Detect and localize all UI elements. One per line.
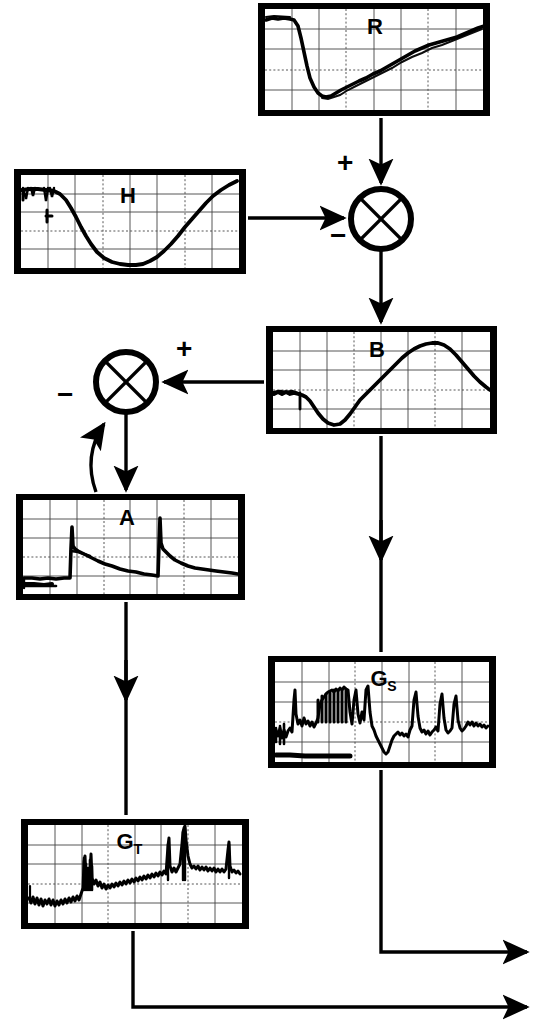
connector-gt-output: [133, 931, 527, 1007]
connector-a-to-sum2-feedback: [91, 424, 104, 492]
scope-label-GS: G: [370, 666, 387, 691]
scope-label-R: R: [367, 14, 383, 39]
summing-junction-2: [96, 352, 156, 412]
junction-2-plus-sign: +: [176, 335, 192, 363]
scope-label-GS-subscript: S: [387, 678, 396, 694]
scope-label-GT: G: [116, 829, 133, 854]
scope-label-GT-subscript: T: [134, 841, 143, 857]
scope-screen-A: A: [16, 494, 245, 600]
scope-screen-R: R: [258, 3, 490, 116]
connector-gs-output: [381, 770, 527, 952]
junction-1-minus-sign: −: [330, 222, 346, 250]
scope-label-B: B: [369, 337, 385, 362]
summing-junction-1: [351, 189, 411, 249]
diagram-canvas: R: [0, 0, 544, 1022]
scope-label-A: A: [119, 505, 135, 530]
scope-label-H: H: [120, 183, 136, 208]
junction-1-plus-sign: +: [337, 149, 353, 177]
junction-2-minus-sign: −: [57, 381, 73, 409]
signal-flow-diagram: R: [0, 0, 544, 1022]
scope-screen-GT: G T: [21, 819, 249, 929]
scope-screen-GS: G S: [268, 656, 496, 768]
scope-screen-B: B: [266, 326, 497, 434]
scope-screen-H: H: [14, 169, 246, 274]
